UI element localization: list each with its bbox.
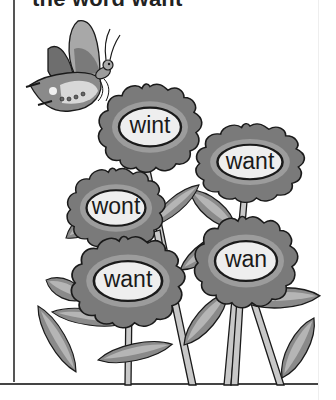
flower-word-3[interactable]: wont — [78, 195, 154, 218]
flower-word-4[interactable]: want — [90, 268, 166, 291]
butterfly-icon — [26, 21, 120, 112]
flower-word-5[interactable]: wan — [208, 248, 284, 271]
flower-word-1[interactable]: wint — [112, 114, 188, 137]
flower-word-2[interactable]: want — [212, 150, 288, 173]
flower-illustration — [0, 0, 336, 400]
